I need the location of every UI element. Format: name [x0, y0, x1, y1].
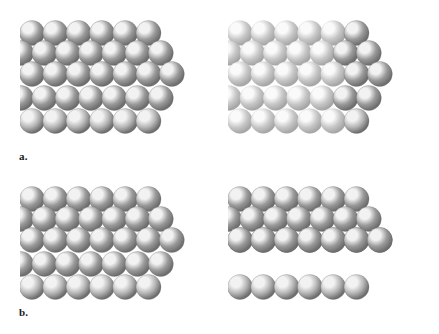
sphere [148, 252, 173, 277]
sphere [356, 86, 381, 111]
sphere [274, 62, 299, 87]
sphere [20, 86, 34, 111]
sphere [274, 109, 299, 134]
sphere-layer-bottom-row [228, 109, 369, 134]
sphere [78, 86, 103, 111]
sphere [102, 86, 127, 111]
sphere [66, 228, 91, 253]
sphere [228, 62, 253, 87]
sphere [136, 228, 161, 253]
sphere [66, 275, 91, 300]
sphere [240, 86, 265, 111]
sphere [125, 252, 150, 277]
sphere [297, 109, 322, 134]
sphere [297, 228, 322, 253]
sphere [344, 109, 369, 134]
sphere [251, 275, 276, 300]
figure-label-a: a. [19, 151, 28, 162]
sphere [20, 252, 34, 277]
sphere [32, 86, 57, 111]
sphere [20, 275, 45, 300]
figure-label-b: b. [19, 307, 28, 318]
sphere [148, 86, 173, 111]
sphere [89, 109, 114, 134]
sphere [344, 62, 369, 87]
sphere [78, 252, 103, 277]
sphere [159, 228, 184, 253]
sphere [263, 86, 288, 111]
sphere [89, 228, 114, 253]
sphere [228, 109, 253, 134]
panel-ccp-abc-stacking-left-view [20, 172, 220, 314]
sphere-layer-bottom-row [228, 275, 369, 300]
sphere-layer-bottom-row [20, 275, 161, 300]
sphere [136, 62, 161, 87]
sphere [310, 86, 335, 111]
sphere-layer-fourth-row [20, 86, 173, 111]
sphere [32, 252, 57, 277]
panel-hcp-aba-stacking-left-view [20, 6, 220, 148]
sphere [367, 62, 392, 87]
sphere [321, 275, 346, 300]
sphere [43, 62, 68, 87]
sphere [297, 62, 322, 87]
sphere [113, 275, 138, 300]
sphere [55, 86, 80, 111]
sphere [102, 252, 127, 277]
sphere [136, 109, 161, 134]
sphere-layer-fourth-row [20, 252, 173, 277]
sphere [251, 228, 276, 253]
figure-canvas: a. b. [0, 0, 439, 334]
sphere [20, 62, 45, 87]
sphere-layer-fourth-row [228, 86, 381, 111]
sphere [125, 86, 150, 111]
panel-ccp-abc-stacking-right-view [228, 172, 428, 314]
sphere [20, 228, 45, 253]
sphere [367, 228, 392, 253]
sphere [333, 86, 358, 111]
sphere [297, 275, 322, 300]
sphere [20, 109, 45, 134]
sphere [66, 109, 91, 134]
sphere [113, 109, 138, 134]
sphere [321, 228, 346, 253]
sphere [89, 62, 114, 87]
sphere [55, 252, 80, 277]
sphere [66, 62, 91, 87]
sphere [43, 228, 68, 253]
sphere [228, 275, 253, 300]
sphere [159, 62, 184, 87]
sphere [344, 275, 369, 300]
sphere [89, 275, 114, 300]
sphere [274, 275, 299, 300]
sphere [321, 109, 346, 134]
sphere [321, 62, 346, 87]
sphere [136, 275, 161, 300]
sphere [286, 86, 311, 111]
sphere [251, 62, 276, 87]
sphere [43, 109, 68, 134]
sphere [251, 109, 276, 134]
sphere [274, 228, 299, 253]
sphere [113, 228, 138, 253]
sphere [344, 228, 369, 253]
sphere [43, 275, 68, 300]
sphere [113, 62, 138, 87]
sphere-layer-bottom-row [20, 109, 161, 134]
sphere [228, 86, 242, 111]
panel-hcp-aba-stacking-right-view [228, 6, 428, 148]
sphere [228, 228, 253, 253]
